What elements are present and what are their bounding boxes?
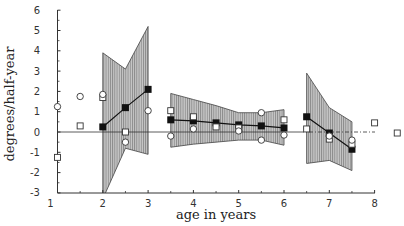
open-square-marker [77, 123, 83, 129]
confidence-band [103, 26, 148, 199]
x-tick-label: 6 [281, 198, 287, 209]
open-circle-marker [258, 137, 264, 143]
filled-square-marker [281, 124, 288, 131]
y-tick-label: 0 [34, 127, 40, 138]
filled-square-marker [258, 122, 265, 129]
x-tick-label: 8 [371, 198, 377, 209]
filled-square-marker [145, 86, 152, 93]
open-square-marker [304, 126, 310, 132]
y-tick-label: 4 [34, 45, 40, 56]
open-circle-marker [326, 133, 332, 139]
confidence-bands [103, 26, 352, 199]
y-tick-label: 2 [34, 86, 40, 97]
y-tick-label: 5 [34, 25, 40, 36]
open-square-marker [122, 129, 128, 135]
open-circle-marker [168, 133, 174, 139]
line-chart: -3-2-1012345612345678 age in years degre… [0, 0, 404, 226]
y-axis-title: degrees/half-year [2, 46, 17, 162]
filled-square-marker [167, 116, 174, 123]
filled-square-marker [303, 113, 310, 120]
open-circle-marker [77, 93, 83, 99]
x-tick-label: 2 [100, 198, 106, 209]
open-circle-marker [190, 126, 196, 132]
x-tick-label: 7 [326, 198, 332, 209]
open-square-marker [213, 124, 219, 130]
filled-square-marker [99, 123, 106, 130]
open-circle-marker [281, 132, 287, 138]
filled-square-marker [122, 104, 129, 111]
open-circle-marker [100, 91, 106, 97]
open-square-marker [394, 130, 400, 136]
y-tick-label: 6 [34, 5, 40, 16]
open-circle-marker [236, 128, 242, 134]
y-tick-label: -1 [30, 147, 40, 158]
y-tick-label: 3 [34, 66, 40, 77]
open-square-marker [190, 114, 196, 120]
x-tick-label: 1 [47, 198, 53, 209]
open-circle-marker [258, 110, 264, 116]
y-tick-label: -2 [30, 167, 40, 178]
y-tick-label: 1 [34, 106, 40, 117]
x-tick-label: 3 [145, 198, 151, 209]
open-square-marker [281, 117, 287, 123]
open-square-marker [372, 120, 378, 126]
y-tick-label: -3 [30, 187, 40, 198]
x-axis-title: age in years [176, 207, 256, 222]
open-square-marker [55, 154, 61, 160]
open-circle-marker [54, 103, 60, 109]
open-circle-marker [145, 107, 151, 113]
open-square-marker [168, 108, 174, 114]
open-circle-marker [349, 137, 355, 143]
open-circle-marker [122, 139, 128, 145]
